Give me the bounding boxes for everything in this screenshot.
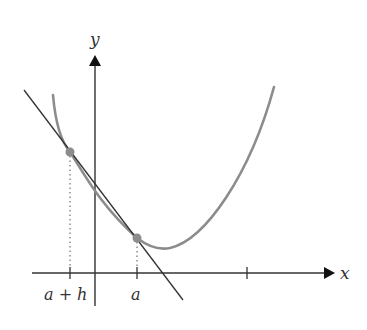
y-axis-label: y — [89, 29, 100, 49]
point-a — [133, 234, 142, 243]
x-axis-label: x — [340, 263, 350, 283]
x-axis — [32, 267, 335, 279]
dotted-guides — [70, 156, 137, 268]
tick-label-a-plus-h: a + h — [44, 285, 87, 304]
tick-label-a: a — [131, 285, 141, 304]
secant-line — [24, 90, 183, 300]
secant-diagram: y x a + h a — [0, 0, 367, 330]
point-a-plus-h — [66, 148, 75, 157]
y-axis — [89, 55, 101, 306]
x-axis-arrow-icon — [324, 267, 335, 279]
function-curve — [53, 87, 274, 249]
y-axis-arrow-icon — [89, 55, 101, 66]
